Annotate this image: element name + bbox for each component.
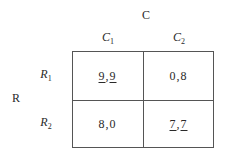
row-strategy-r1: R1 — [36, 67, 56, 83]
payoff-cell-r1-c1: 9,9 — [72, 52, 143, 100]
payoff-cell-r2-c1: 8,0 — [72, 100, 143, 148]
payoff-cell-r1-c2: 0,8 — [143, 52, 214, 100]
column-strategy-c1: C1 — [88, 30, 128, 46]
row-strategy-r2: R2 — [36, 115, 56, 131]
row-player-label: R — [12, 91, 20, 106]
column-player-label: C — [136, 8, 156, 23]
column-strategy-c2: C2 — [159, 30, 199, 46]
payoff-cell-r2-c2: 7,7 — [143, 100, 214, 148]
